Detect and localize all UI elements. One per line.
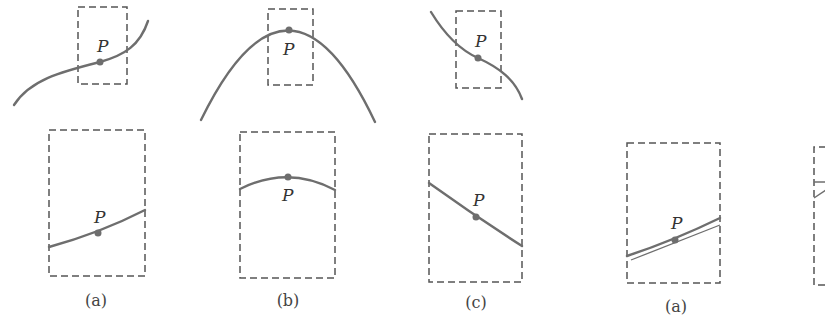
panel-a-zoomed: P (a) [49,130,145,310]
panel-a-tangent: P (a) [627,143,720,316]
zoom-box [240,132,335,278]
point-label: P [282,39,295,59]
zoom-box [49,130,145,276]
point-label: P [93,207,106,227]
caption: (a) [665,297,687,316]
partial-line [814,190,825,198]
panel-b-top: P [201,9,375,122]
point-label: P [472,190,485,210]
caption: (c) [465,293,486,312]
point-p [95,230,102,237]
point-label: P [281,185,294,205]
caption: (b) [277,291,300,310]
point-p [97,59,104,66]
point-p [475,55,482,62]
point-p [285,174,292,181]
point-p [473,214,480,221]
point-label: P [96,36,109,56]
point-p [672,237,679,244]
panel-c-zoomed: P (c) [429,134,522,312]
s-curve-increasing [14,21,148,105]
panel-c-top: P [431,11,522,99]
panel-b-zoomed: P (b) [240,132,335,310]
panel-partial [814,147,825,285]
local-linearity-diagram: P P P P (a) P (b) P (c) [0,0,825,316]
point-label: P [670,213,683,233]
caption: (a) [85,291,107,310]
point-label: P [474,31,487,51]
panel-a-top: P [14,7,148,105]
zoom-box-partial [814,147,825,285]
point-p [286,27,293,34]
